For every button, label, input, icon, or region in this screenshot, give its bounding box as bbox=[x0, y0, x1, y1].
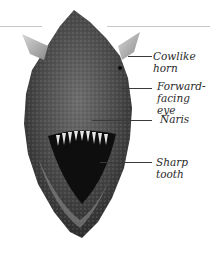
leader-line-naris bbox=[92, 120, 152, 121]
label-cowlike-horn: Cowlike horn bbox=[153, 50, 196, 74]
dinosaur-head-illustration bbox=[20, 8, 148, 246]
horn-left bbox=[22, 34, 48, 60]
leader-line-eye bbox=[121, 88, 152, 89]
label-forward-facing-eye: Forward- facing eye bbox=[157, 80, 210, 116]
label-naris: Naris bbox=[160, 113, 189, 125]
leader-line-horn bbox=[128, 56, 152, 57]
leader-line-tooth bbox=[100, 162, 152, 163]
label-sharp-tooth: Sharp tooth bbox=[156, 156, 188, 180]
